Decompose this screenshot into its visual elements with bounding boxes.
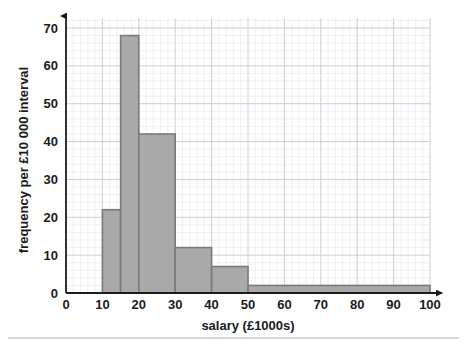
y-tick-label-40: 40	[44, 134, 58, 149]
y-tick-label-30: 30	[44, 172, 58, 187]
y-tick-label-70: 70	[44, 21, 58, 36]
bar-40-50[interactable]	[212, 267, 248, 294]
y-tick-label-60: 60	[44, 58, 58, 73]
y-axis-title: frequency per £10 000 interval	[16, 67, 31, 253]
bar-20-30[interactable]	[139, 134, 175, 293]
y-tick-label-50: 50	[44, 96, 58, 111]
x-tick-label-10: 10	[95, 297, 109, 312]
x-tick-label-100: 100	[419, 297, 441, 312]
x-tick-label-70: 70	[314, 297, 328, 312]
histogram-chart: 0 10 20 30 40 50 60 70 80 90 100 0 10 20…	[0, 0, 467, 345]
x-tick-label-90: 90	[386, 297, 400, 312]
x-tick-label-80: 80	[350, 297, 364, 312]
bar-30-40[interactable]	[175, 248, 211, 293]
x-tick-label-40: 40	[204, 297, 218, 312]
y-tick-label-10: 10	[44, 248, 58, 263]
y-tick-label-20: 20	[44, 210, 58, 225]
bar-50-100[interactable]	[248, 285, 430, 293]
bar-10-15[interactable]	[102, 210, 120, 293]
x-tick-label-50: 50	[241, 297, 255, 312]
x-tick-label-30: 30	[168, 297, 182, 312]
x-axis-title: salary (£1000s)	[201, 318, 294, 333]
x-tick-label-20: 20	[132, 297, 146, 312]
histogram-figure: 0 10 20 30 40 50 60 70 80 90 100 0 10 20…	[0, 0, 467, 345]
bar-15-20[interactable]	[121, 36, 139, 293]
y-tick-label-0: 0	[51, 286, 58, 301]
x-tick-label-0: 0	[62, 297, 69, 312]
x-tick-label-60: 60	[277, 297, 291, 312]
